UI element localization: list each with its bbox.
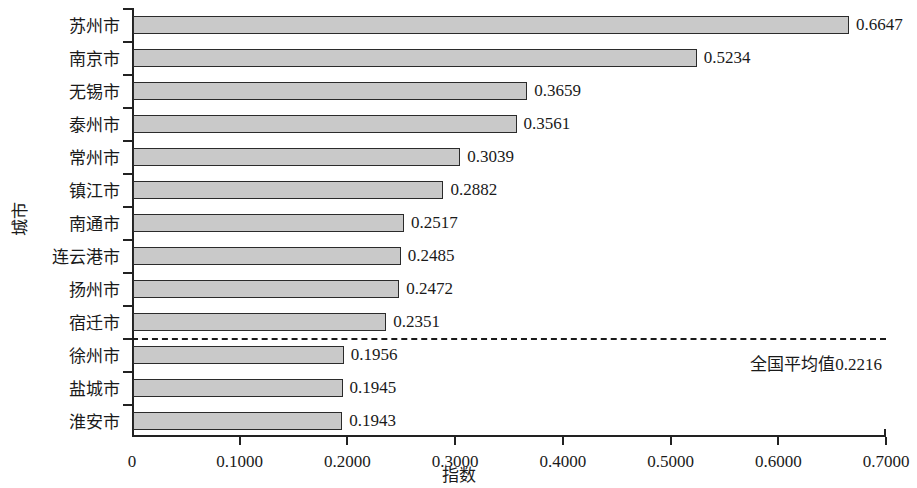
bar-1[interactable] [133,49,697,67]
y-axis-tick [123,338,132,340]
category-label-7: 连云港市 [52,243,120,268]
y-axis-title: 城市 [6,179,31,259]
bar-row: 扬州市0.2472 [132,272,886,305]
y-axis-tick [123,41,132,43]
y-axis-tick [123,107,132,109]
bar-11[interactable] [133,379,343,397]
bar-6[interactable] [133,214,404,232]
bar-value-label-3: 0.3561 [524,114,571,134]
bar-row: 南通市0.2517 [132,206,886,239]
bar-3[interactable] [133,115,517,133]
bar-chart-figure: 城市 苏州市0.6647南京市0.5234无锡市0.3659泰州市0.3561常… [0,0,917,488]
bar-value-label-8: 0.2472 [406,279,453,299]
bar-value-label-0: 0.6647 [856,15,903,35]
category-label-0: 苏州市 [69,12,120,37]
national-average-label: 全国平均值0.2216 [750,350,882,375]
category-label-9: 宿迁市 [69,309,120,334]
bar-2[interactable] [133,82,527,100]
category-label-12: 淮安市 [69,408,120,433]
bar-value-label-5: 0.2882 [450,180,497,200]
category-label-3: 泰州市 [69,111,120,136]
bar-value-label-6: 0.2517 [411,213,458,233]
bar-row: 镇江市0.2882 [132,173,886,206]
x-axis-tick-1 [239,437,241,445]
y-axis-tick [123,8,132,10]
bar-10[interactable] [133,346,344,364]
category-label-2: 无锡市 [69,78,120,103]
x-axis-tick-2 [346,437,348,445]
category-label-5: 镇江市 [69,177,120,202]
x-axis-tick-4 [562,437,564,445]
x-axis-tick-3 [454,437,456,445]
category-label-4: 常州市 [69,144,120,169]
bar-value-label-10: 0.1956 [351,345,398,365]
y-axis-tick [123,74,132,76]
plot-area: 苏州市0.6647南京市0.5234无锡市0.3659泰州市0.3561常州市0… [132,8,886,437]
bar-value-label-7: 0.2485 [408,246,455,266]
bar-12[interactable] [133,412,342,430]
bar-value-label-1: 0.5234 [704,48,751,68]
bar-value-label-11: 0.1945 [350,378,397,398]
bar-row: 泰州市0.3561 [132,107,886,140]
y-axis-tick [123,371,132,373]
bar-row: 无锡市0.3659 [132,74,886,107]
bar-4[interactable] [133,148,460,166]
y-axis-tick [123,140,132,142]
category-label-1: 南京市 [69,45,120,70]
bar-0[interactable] [133,16,849,34]
x-axis-tick-7 [885,437,887,445]
bar-row: 盐城市0.1945 [132,371,886,404]
bar-5[interactable] [133,181,443,199]
bar-value-label-12: 0.1943 [349,411,396,431]
bar-value-label-9: 0.2351 [393,312,440,332]
bar-row: 常州市0.3039 [132,140,886,173]
bar-row: 宿迁市0.2351 [132,305,886,338]
category-label-8: 扬州市 [69,276,120,301]
national-average-line [132,338,886,340]
y-axis-tick [123,272,132,274]
bar-value-label-4: 0.3039 [467,147,514,167]
bar-row: 淮安市0.1943 [132,404,886,437]
bar-7[interactable] [133,247,401,265]
bar-9[interactable] [133,313,386,331]
category-label-11: 盐城市 [69,375,120,400]
y-axis-tick [123,305,132,307]
x-axis-tick-6 [777,437,779,445]
bar-8[interactable] [133,280,399,298]
category-label-6: 南通市 [69,210,120,235]
bar-value-label-2: 0.3659 [534,81,581,101]
y-axis-tick [123,404,132,406]
y-axis-tick [123,239,132,241]
bar-row: 苏州市0.6647 [132,8,886,41]
bar-row: 连云港市0.2485 [132,239,886,272]
x-axis-tick-5 [670,437,672,445]
y-axis-tick [123,206,132,208]
bar-row: 南京市0.5234 [132,41,886,74]
y-axis-tick [123,173,132,175]
x-axis-title: 指数 [0,461,917,486]
category-label-10: 徐州市 [69,342,120,367]
